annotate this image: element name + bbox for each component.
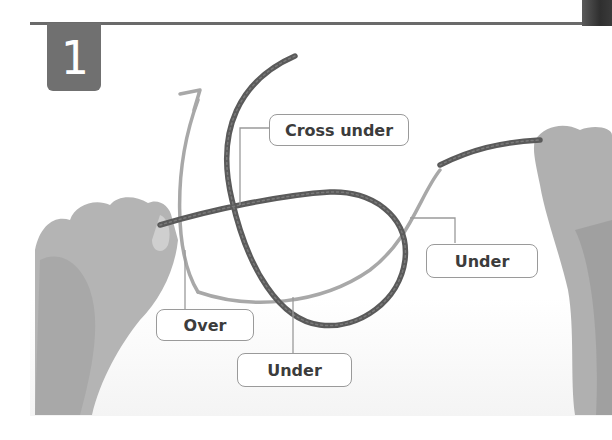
- callout-label: Cross under: [285, 121, 393, 140]
- callout-label: Over: [184, 316, 227, 335]
- callout-label: Under: [267, 361, 322, 380]
- callout-cross-under: Cross under: [269, 114, 409, 146]
- callout-label: Under: [455, 252, 510, 271]
- callout-under-bottom: Under: [237, 353, 352, 387]
- right-hand-icon: [534, 126, 612, 415]
- step-number: 1: [60, 35, 88, 81]
- callout-over: Over: [156, 309, 254, 341]
- left-hand-icon: [35, 197, 178, 415]
- knot-step-diagram: 1 Cross under Over Under Under: [0, 0, 612, 440]
- callout-under-right: Under: [426, 244, 538, 278]
- step-number-badge: 1: [47, 23, 101, 91]
- rope-icon: [160, 56, 540, 326]
